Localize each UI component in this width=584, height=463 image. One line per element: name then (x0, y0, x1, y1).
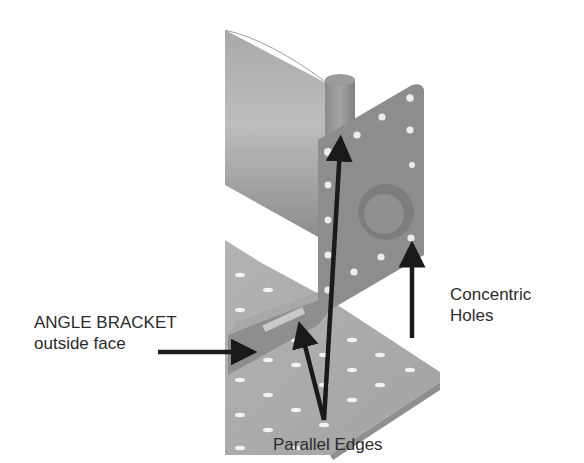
bracket-diagram (0, 0, 584, 463)
angle-bracket-label: ANGLE BRACKET outside face (34, 312, 177, 354)
parallel-edges-label: Parallel Edges (273, 434, 383, 455)
concentric-holes-label-line1: Concentric (450, 284, 531, 305)
concentric-holes-label-line2: Holes (450, 305, 531, 326)
concentric-boss-inner (364, 194, 404, 234)
angle-bracket-label-line2: outside face (34, 333, 177, 354)
motor-cylinder (225, 30, 330, 238)
angle-bracket-label-line1: ANGLE BRACKET (34, 312, 177, 333)
concentric-holes-label: Concentric Holes (450, 284, 531, 326)
